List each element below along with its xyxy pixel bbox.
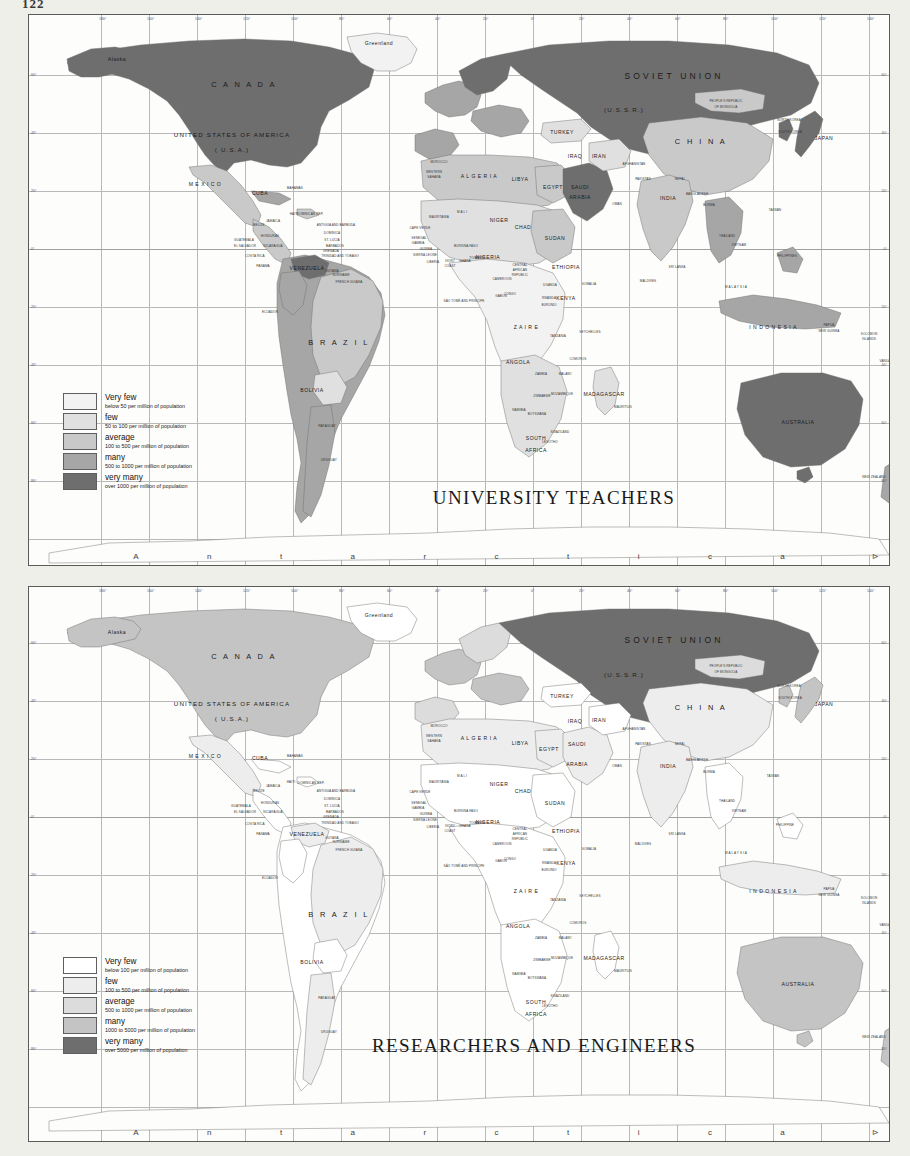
legend-label: many	[105, 454, 192, 463]
legend-row: many500 to 1000 per million of populatio…	[63, 453, 192, 470]
legend-range: 100 to 500 per million of population	[105, 443, 189, 449]
legend-row: few50 to 100 per million of population	[63, 413, 192, 430]
legend-row: very manyover 1000 per million of popula…	[63, 473, 192, 490]
legend-swatch	[63, 977, 97, 994]
compass-icon-teachers: ⊳	[872, 552, 879, 561]
legend-text: average100 to 500 per million of populat…	[105, 434, 189, 449]
legend-text: many1000 to 5000 per million of populati…	[105, 1018, 195, 1033]
legend-text: Very fewbelow 50 per million of populati…	[105, 394, 185, 409]
legend-swatch	[63, 1037, 97, 1054]
legend-range: 500 to 1000 per million of population	[105, 463, 192, 469]
legend-swatch	[63, 393, 97, 410]
map-panel-researchers-engineers: 180°160° 140°120° 100°80° 60°40° 20°0° 2…	[28, 586, 890, 1142]
map-panel-university-teachers: 180°160° 140°120° 100°80° 60°40° 20°0° 2…	[28, 14, 890, 566]
legend-text: many500 to 1000 per million of populatio…	[105, 454, 192, 469]
world-landmass-layer-researchers	[29, 587, 889, 1141]
legend-swatch	[63, 473, 97, 490]
legend-swatch	[63, 453, 97, 470]
legend-swatch	[63, 1017, 97, 1034]
legend-text: few50 to 100 per million of population	[105, 414, 186, 429]
map-title-researchers-engineers: RESEARCHERS AND ENGINEERS	[372, 1035, 696, 1057]
legend-row: very manyover 5000 per million of popula…	[63, 1037, 195, 1054]
page-folio: 122	[22, 0, 45, 12]
legend-text: very manyover 1000 per million of popula…	[105, 474, 187, 489]
legend-swatch	[63, 957, 97, 974]
legend-text: few100 to 500 per million of population	[105, 978, 189, 993]
legend-label: few	[105, 978, 189, 987]
legend-row: average100 to 500 per million of populat…	[63, 433, 192, 450]
legend-range: below 100 per million of population	[105, 967, 188, 973]
map-canvas-researchers: 180°160° 140°120° 100°80° 60°40° 20°0° 2…	[29, 587, 889, 1141]
legend-label: Very few	[105, 958, 188, 967]
compass-icon-researchers: ⊳	[872, 1128, 879, 1137]
legend-row: average500 to 1000 per million of popula…	[63, 997, 195, 1014]
legend-range: below 50 per million of population	[105, 403, 185, 409]
legend-range: 100 to 500 per million of population	[105, 987, 189, 993]
map-title-university-teachers: UNIVERSITY TEACHERS	[433, 487, 675, 509]
legend-label: average	[105, 998, 192, 1007]
legend-label: very many	[105, 474, 187, 483]
legend-row: few100 to 500 per million of population	[63, 977, 195, 994]
legend-university-teachers: Very fewbelow 50 per million of populati…	[63, 393, 192, 493]
map-canvas-teachers: 180°160° 140°120° 100°80° 60°40° 20°0° 2…	[29, 15, 889, 565]
legend-label: average	[105, 434, 189, 443]
legend-label: few	[105, 414, 186, 423]
legend-swatch	[63, 413, 97, 430]
legend-range: over 5000 per million of population	[105, 1047, 187, 1053]
legend-researchers-engineers: Very fewbelow 100 per million of populat…	[63, 957, 195, 1057]
legend-swatch	[63, 433, 97, 450]
legend-text: very manyover 5000 per million of popula…	[105, 1038, 187, 1053]
legend-range: over 1000 per million of population	[105, 483, 187, 489]
legend-label: very many	[105, 1038, 187, 1047]
legend-range: 1000 to 5000 per million of population	[105, 1027, 195, 1033]
legend-text: Very fewbelow 100 per million of populat…	[105, 958, 188, 973]
legend-text: average500 to 1000 per million of popula…	[105, 998, 192, 1013]
legend-row: many1000 to 5000 per million of populati…	[63, 1017, 195, 1034]
legend-label: many	[105, 1018, 195, 1027]
legend-range: 50 to 100 per million of population	[105, 423, 186, 429]
legend-swatch	[63, 997, 97, 1014]
legend-range: 500 to 1000 per million of population	[105, 1007, 192, 1013]
legend-row: Very fewbelow 100 per million of populat…	[63, 957, 195, 974]
legend-row: Very fewbelow 50 per million of populati…	[63, 393, 192, 410]
legend-label: Very few	[105, 394, 185, 403]
